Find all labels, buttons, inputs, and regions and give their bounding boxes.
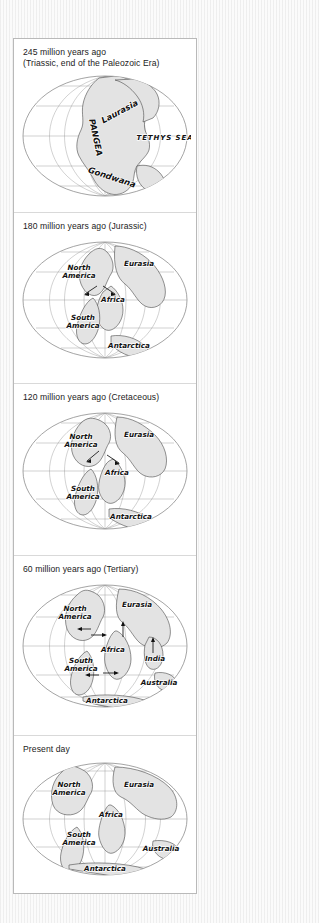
label-south-america-l2: America — [65, 321, 99, 330]
label-antarctica: Antarctica — [107, 341, 150, 350]
label-south-america-l2: America — [61, 838, 95, 847]
label-antarctica: Antarctica — [85, 696, 128, 705]
label-australia: Australia — [140, 678, 178, 687]
globe-svg-60ma: North America Eurasia Africa India South… — [19, 575, 191, 717]
globe-180ma: North America Eurasia Africa South Ameri… — [14, 232, 196, 368]
label-south-america-l2: America — [63, 664, 97, 673]
label-antarctica: Antarctica — [83, 864, 126, 873]
label-south-america-l2: America — [65, 492, 99, 501]
panel-caption-60ma: 60 million years ago (Tertiary) — [14, 564, 196, 575]
panel-caption-180ma: 180 million years ago (Jurassic) — [14, 221, 196, 232]
globe-120ma: North America Eurasia Africa South Ameri… — [14, 403, 196, 539]
label-north-america-l2: America — [61, 271, 95, 280]
panel-present-day: Present day — [14, 736, 196, 893]
panel-caption-120ma: 120 million years ago (Cretaceous) — [14, 392, 196, 403]
globe-60ma: North America Eurasia Africa India South… — [14, 575, 196, 717]
label-australia: Australia — [142, 844, 180, 853]
panel-180ma: 180 million years ago (Jurassic) — [14, 213, 196, 384]
panel-caption-245ma: 245 million years ago (Triassic, end of … — [14, 47, 196, 68]
label-africa: Africa — [104, 468, 129, 477]
label-tethys-sea: TETHYS SEA — [137, 134, 191, 142]
panel-120ma: 120 million years ago (Cretaceous) — [14, 384, 196, 556]
globe-svg-245ma: Laurasia PANGEA Gondwana TETHYS SEA — [19, 68, 191, 204]
panel-caption-present-day: Present day — [14, 744, 196, 755]
label-eurasia: Eurasia — [124, 430, 154, 439]
label-north-america-l2: America — [51, 788, 85, 797]
label-africa: Africa — [100, 295, 125, 304]
globe-svg-180ma: North America Eurasia Africa South Ameri… — [19, 232, 191, 368]
label-africa: Africa — [100, 645, 125, 654]
label-antarctica: Antarctica — [109, 512, 152, 521]
globe-svg-present-day: North America Eurasia Africa South Ameri… — [19, 755, 191, 883]
label-north-america-l2: America — [57, 612, 91, 621]
panel-245ma: 245 million years ago (Triassic, end of … — [14, 39, 196, 213]
label-eurasia: Eurasia — [122, 600, 152, 609]
label-india: India — [145, 654, 165, 663]
label-africa: Africa — [98, 810, 123, 819]
panel-60ma: 60 million years ago (Tertiary) — [14, 556, 196, 736]
continental-drift-figure: 245 million years ago (Triassic, end of … — [13, 38, 197, 894]
globe-svg-120ma: North America Eurasia Africa South Ameri… — [19, 403, 191, 539]
label-eurasia: Eurasia — [124, 780, 154, 789]
globe-245ma: Laurasia PANGEA Gondwana TETHYS SEA — [14, 68, 196, 204]
globe-present-day: North America Eurasia Africa South Ameri… — [14, 755, 196, 883]
label-eurasia: Eurasia — [124, 259, 154, 268]
label-north-america-l2: America — [63, 440, 97, 449]
